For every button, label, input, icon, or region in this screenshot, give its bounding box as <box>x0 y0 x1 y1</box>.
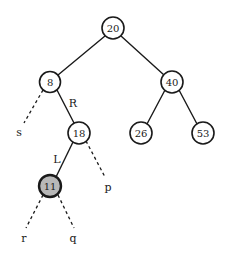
tree-edge <box>179 90 197 124</box>
tree-edge-dashed <box>58 195 74 228</box>
tree-edge <box>121 36 164 75</box>
tree-node[interactable]: 40 <box>161 71 183 93</box>
node-value-label: 20 <box>107 23 119 34</box>
tree-node[interactable]: 20 <box>102 17 124 39</box>
edge-direction-label: L <box>53 153 61 166</box>
tree-edge-dashed <box>26 195 43 228</box>
node-value-label: 40 <box>166 77 178 88</box>
node-value-label: 11 <box>44 181 56 192</box>
node-value-label: 8 <box>47 77 53 88</box>
pointer-label: p <box>104 181 111 194</box>
binary-tree-diagram: 2084018265311 RL sprq <box>0 0 228 259</box>
tree-edge <box>147 90 165 124</box>
edge-direction-label: R <box>69 97 78 110</box>
tree-node[interactable]: 8 <box>40 72 61 93</box>
tree-node[interactable]: 26 <box>130 122 152 144</box>
tree-edge-dashed <box>24 90 43 123</box>
tree-canvas: 2084018265311 RL sprq <box>0 0 228 259</box>
node-value-label: 26 <box>135 128 147 139</box>
pointer-label: s <box>16 126 22 139</box>
pointer-label: r <box>21 232 27 245</box>
tree-node-highlighted[interactable]: 11 <box>39 175 61 197</box>
pointer-label: q <box>69 232 76 245</box>
leaf-labels-group: sprq <box>16 126 111 245</box>
tree-node[interactable]: 18 <box>68 122 90 144</box>
node-value-label: 53 <box>197 128 209 139</box>
tree-edge <box>58 36 105 75</box>
tree-node[interactable]: 53 <box>192 122 214 144</box>
node-value-label: 18 <box>73 128 85 139</box>
tree-edge-dashed <box>86 141 105 177</box>
